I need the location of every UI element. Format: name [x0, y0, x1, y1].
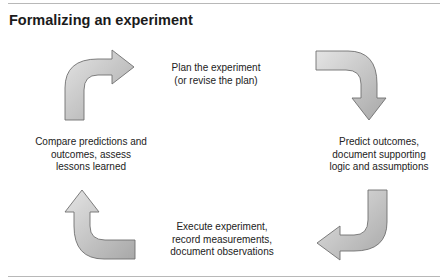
curved-arrow-up-icon [64, 188, 136, 260]
diagram-title: Formalizing an experiment [9, 12, 193, 28]
step-execute-label: Execute experiment, record measurements,… [160, 221, 284, 259]
bottom-divider [8, 276, 440, 277]
step-plan-label: Plan the experiment (or revise the plan) [160, 62, 272, 87]
curved-arrow-left-icon [316, 190, 388, 262]
curved-arrow-down-icon [316, 50, 388, 122]
step-compare-label: Compare predictions and outcomes, assess… [18, 136, 164, 174]
top-divider [8, 3, 440, 4]
curved-arrow-right-icon [64, 50, 136, 122]
step-predict-label: Predict outcomes, document supporting lo… [316, 136, 442, 174]
